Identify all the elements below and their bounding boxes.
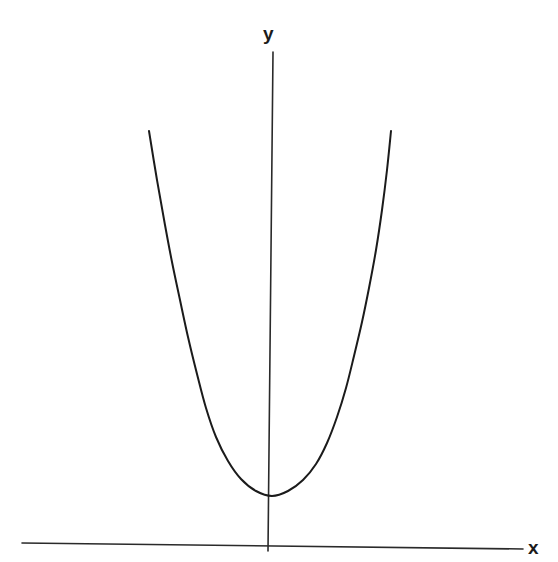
x-axis-label: x: [528, 538, 539, 557]
graph-canvas: [0, 0, 558, 562]
y-axis-line: [268, 52, 273, 551]
y-axis-label: y: [263, 24, 274, 43]
parabola-figure: y x: [0, 0, 558, 562]
x-axis-line: [22, 543, 523, 549]
